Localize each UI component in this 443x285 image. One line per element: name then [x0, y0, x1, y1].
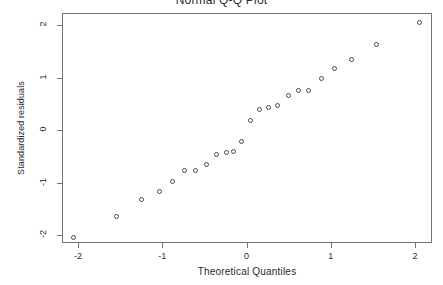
y-axis-tick	[57, 183, 62, 184]
y-axis-tick-label: 2	[38, 15, 48, 33]
y-axis-tick-label: -2	[38, 225, 48, 243]
x-axis-label: Theoretical Quantiles	[62, 266, 432, 277]
y-axis-tick-label: 0	[38, 120, 48, 138]
x-axis-tick	[247, 243, 248, 248]
y-axis-tick	[57, 25, 62, 26]
chart-title: Normal Q-Q Plot	[0, 0, 443, 7]
x-axis-tick	[331, 243, 332, 248]
x-axis-tick-label: -2	[63, 251, 93, 261]
x-axis-tick-label: 1	[316, 251, 346, 261]
plot-frame	[62, 13, 432, 243]
y-axis-tick-label: 1	[38, 68, 48, 86]
x-axis-tick-label: 2	[400, 251, 430, 261]
y-axis-tick	[57, 130, 62, 131]
x-axis-tick	[415, 243, 416, 248]
normal-qq-plot: Normal Q-Q Plot -2-1012210-1-2 Theoretic…	[0, 0, 443, 285]
y-axis-tick	[57, 235, 62, 236]
x-axis-tick	[162, 243, 163, 248]
x-axis-tick-label: 0	[232, 251, 262, 261]
y-axis-label: Standardized residuals	[16, 63, 26, 193]
y-axis-tick-label: -1	[38, 173, 48, 191]
x-axis-tick-label: -1	[147, 251, 177, 261]
x-axis-tick	[78, 243, 79, 248]
y-axis-tick	[57, 78, 62, 79]
